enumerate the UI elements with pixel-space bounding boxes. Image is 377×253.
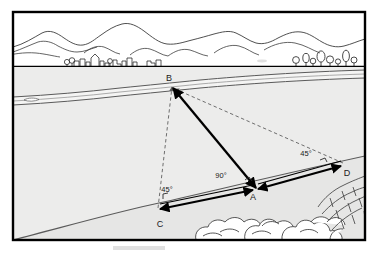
diagram-canvas: B A C D 45° 90° 45° bbox=[0, 0, 377, 253]
scan-artifact-sky bbox=[257, 60, 267, 63]
angle-label-c: 45° bbox=[161, 185, 172, 194]
angle-label-a: 90° bbox=[215, 171, 226, 180]
point-label-d: D bbox=[344, 168, 351, 178]
survey-diagram-svg: B A C D 45° 90° 45° bbox=[0, 0, 377, 253]
angle-label-d: 45° bbox=[300, 149, 311, 158]
point-label-a: A bbox=[250, 192, 256, 202]
scan-artifact-bottom bbox=[113, 246, 165, 250]
point-label-b: B bbox=[166, 73, 172, 83]
sky-band bbox=[1, 12, 365, 67]
ground-band bbox=[13, 67, 365, 240]
boulder-cluster bbox=[196, 217, 345, 240]
point-label-c: C bbox=[157, 219, 164, 229]
